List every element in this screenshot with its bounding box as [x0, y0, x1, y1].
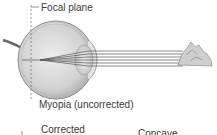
concave-label: Concave [138, 129, 177, 135]
distant-object-icon [178, 42, 212, 66]
myopia-eye-diagram: Focal plane Myopia (uncorrected) Correct… [0, 0, 217, 135]
eye-illustration [0, 0, 217, 135]
myopia-label: Myopia (uncorrected) [39, 100, 133, 110]
optic-nerve [3, 40, 22, 48]
corrected-label: Corrected [41, 125, 85, 135]
focal-plane-label: Focal plane [41, 3, 93, 13]
